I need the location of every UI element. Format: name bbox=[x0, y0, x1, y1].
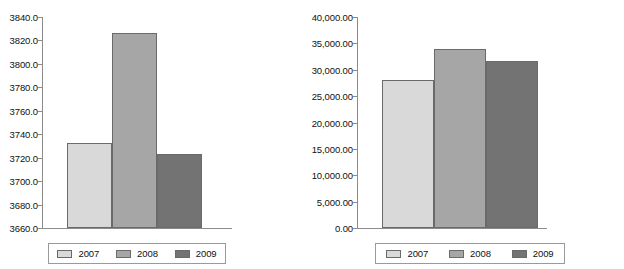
y-axis-tick-mark bbox=[38, 134, 42, 135]
legend-swatch-2007 bbox=[57, 250, 72, 258]
legend-entry-2009: 2009 bbox=[512, 248, 554, 259]
y-axis-tick-label: 10,000.00 bbox=[312, 170, 353, 181]
y-axis-tick-mark bbox=[38, 181, 42, 182]
bar-2007 bbox=[67, 143, 112, 228]
legend-swatch-2008 bbox=[116, 250, 131, 258]
y-axis-tick-labels-left: 3840.03820.03800.03780.03760.03740.03720… bbox=[0, 0, 38, 236]
y-axis-tick-label: 3680.0 bbox=[10, 199, 38, 210]
y-axis-tick-mark bbox=[38, 40, 42, 41]
y-axis-tick-mark bbox=[353, 70, 357, 71]
legend-label: 2007 bbox=[78, 248, 99, 259]
plot-area-left: 3840.03820.03800.03780.03760.03740.03720… bbox=[0, 0, 312, 236]
y-axis-tick-label: 3720.0 bbox=[10, 152, 38, 163]
y-axis-tick-label: 35,000.00 bbox=[312, 38, 353, 49]
y-axis-tick-mark bbox=[353, 43, 357, 44]
y-axis-tick-labels-right: 40,000.0035,000.0030,000.0025,000.0020,0… bbox=[312, 0, 353, 236]
y-axis-line-left bbox=[42, 17, 43, 229]
y-axis-tick-mark bbox=[353, 123, 357, 124]
legend-entry-2007: 2007 bbox=[386, 248, 428, 259]
y-axis-tick-label: 40,000.00 bbox=[312, 12, 353, 23]
bar-2008 bbox=[434, 49, 486, 228]
y-axis-tick-label: 3800.0 bbox=[10, 58, 38, 69]
y-axis-tick-label: 3840.0 bbox=[10, 12, 38, 23]
y-axis-tick-mark bbox=[353, 175, 357, 176]
legend-swatch-2009 bbox=[512, 250, 527, 258]
y-axis-tick-mark bbox=[353, 96, 357, 97]
legend-right: 200720082009 bbox=[375, 243, 565, 264]
x-axis-line-right bbox=[357, 228, 547, 229]
legend-entry-2009: 2009 bbox=[175, 248, 217, 259]
y-axis-tick-label: 3820.0 bbox=[10, 35, 38, 46]
legend-swatch-2007 bbox=[386, 250, 401, 258]
y-axis-tick-mark bbox=[353, 149, 357, 150]
bar-2009 bbox=[157, 154, 202, 228]
legend-entry-2008: 2008 bbox=[116, 248, 158, 259]
legend-label: 2009 bbox=[533, 248, 554, 259]
legend-label: 2007 bbox=[407, 248, 428, 259]
plot-area-right: 40,000.0035,000.0030,000.0025,000.0020,0… bbox=[312, 0, 624, 236]
y-axis-tick-label: 3660.0 bbox=[10, 223, 38, 234]
y-axis-tick-label: 20,000.00 bbox=[312, 117, 353, 128]
y-axis-tick-mark bbox=[38, 158, 42, 159]
y-axis-tick-mark bbox=[38, 111, 42, 112]
y-axis-tick-mark bbox=[38, 17, 42, 18]
y-axis-tick-mark bbox=[353, 202, 357, 203]
y-axis-tick-label: 30,000.00 bbox=[312, 64, 353, 75]
legend-entry-2008: 2008 bbox=[449, 248, 491, 259]
y-axis-tick-label: 3780.0 bbox=[10, 82, 38, 93]
legend-left: 200720082009 bbox=[48, 243, 226, 264]
bar-chart-right: 40,000.0035,000.0030,000.0025,000.0020,0… bbox=[312, 0, 624, 269]
bar-2009 bbox=[486, 61, 538, 228]
y-axis-tick-mark bbox=[38, 228, 42, 229]
bar-2007 bbox=[382, 80, 434, 228]
y-axis-tick-mark bbox=[38, 87, 42, 88]
legend-entry-2007: 2007 bbox=[57, 248, 99, 259]
y-axis-tick-mark bbox=[353, 17, 357, 18]
y-axis-tick-label: 3740.0 bbox=[10, 129, 38, 140]
y-axis-tick-label: 3760.0 bbox=[10, 105, 38, 116]
legend-label: 2009 bbox=[196, 248, 217, 259]
y-axis-tick-mark bbox=[38, 64, 42, 65]
bar-2008 bbox=[112, 33, 157, 228]
y-axis-line-right bbox=[357, 17, 358, 229]
y-axis-tick-mark bbox=[38, 205, 42, 206]
y-axis-tick-label: 0.00 bbox=[335, 223, 353, 234]
bar-chart-left: 3840.03820.03800.03780.03760.03740.03720… bbox=[0, 0, 312, 269]
legend-label: 2008 bbox=[470, 248, 491, 259]
legend-label: 2008 bbox=[137, 248, 158, 259]
x-axis-line-left bbox=[42, 228, 232, 229]
y-axis-tick-label: 25,000.00 bbox=[312, 91, 353, 102]
y-axis-tick-label: 15,000.00 bbox=[312, 143, 353, 154]
legend-swatch-2008 bbox=[449, 250, 464, 258]
y-axis-tick-label: 5,000.00 bbox=[317, 196, 353, 207]
legend-swatch-2009 bbox=[175, 250, 190, 258]
y-axis-tick-mark bbox=[353, 228, 357, 229]
charts-page: 3840.03820.03800.03780.03760.03740.03720… bbox=[0, 0, 624, 269]
y-axis-tick-label: 3700.0 bbox=[10, 176, 38, 187]
